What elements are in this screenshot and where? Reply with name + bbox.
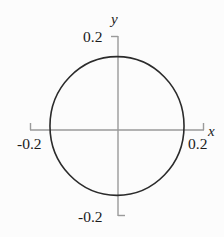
plot-figure: y x 0.2 -0.2 -0.2 0.2 — [0, 0, 224, 237]
x-axis-label: x — [208, 124, 215, 139]
x-axis-tick-label-min: -0.2 — [17, 136, 42, 152]
y-axis-label: y — [111, 12, 118, 27]
y-axis-tick-label-min: -0.2 — [78, 209, 103, 225]
plotted-circle-curve — [50, 57, 184, 196]
plot-canvas — [0, 0, 224, 237]
y-axis-tick-label-max: 0.2 — [83, 29, 102, 45]
x-axis-tick-label-max: 0.2 — [188, 136, 207, 152]
